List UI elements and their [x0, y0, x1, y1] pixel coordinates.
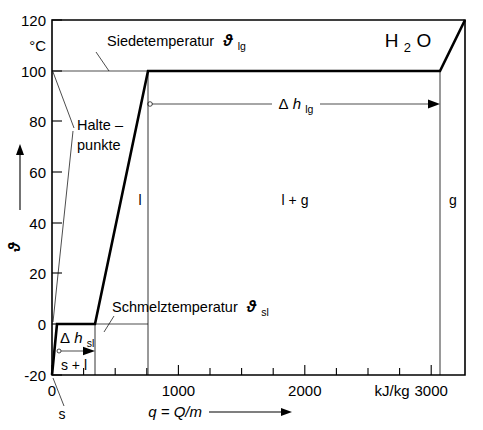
- x-tick-label-3000: 3000: [415, 382, 448, 399]
- delta-h-lg-label: Δ h lg: [279, 95, 314, 115]
- x-axis-unit-label: kJ/kg: [374, 382, 409, 399]
- boiling-temperature-annotation: Siedetemperatur ϑ lg: [96, 32, 246, 71]
- x-axis-arrow-icon: [281, 408, 292, 416]
- delta-h-lg-dimension: Δ h lg: [148, 95, 440, 115]
- substance-label: H 2 O: [385, 30, 431, 56]
- y-tick-label-120: 120: [21, 12, 46, 29]
- y-axis-title-group: ϑ: [6, 144, 24, 253]
- hold-points-leader-lower: [53, 131, 73, 322]
- hold-points-label-line2: punkte: [77, 137, 121, 153]
- y-tick-label-20: 20: [29, 265, 46, 282]
- boiling-temperature-label: Siedetemperatur ϑ lg: [107, 32, 246, 52]
- y-axis-arrow-icon: [16, 144, 24, 155]
- phase-diagram-chart: -20 0 20 40 60 80 100 120 °C ϑ 0 1000 20…: [0, 0, 483, 430]
- melting-temperature-annotation: Schmelztemperatur ϑ sl: [104, 298, 269, 332]
- melting-temperature-label: Schmelztemperatur ϑ sl: [112, 298, 269, 318]
- x-axis-title-group: q = Q/m: [148, 403, 292, 420]
- x-axis-title: q = Q/m: [148, 403, 202, 420]
- x-tick-label-1000: 1000: [162, 382, 195, 399]
- plot-frame: [52, 20, 465, 375]
- y-tick-label-minus20: -20: [24, 367, 46, 384]
- heating-curve-path: [52, 20, 465, 375]
- region-label-liquid-gas: l + g: [282, 192, 309, 208]
- hold-points-annotation: Halte – punkte: [53, 72, 124, 322]
- region-label-gas: g: [449, 192, 457, 208]
- solid-region-label: s: [59, 406, 66, 422]
- boiling-leader-line: [96, 52, 109, 71]
- region-label-liquid: l: [138, 192, 141, 208]
- y-axis-tick-labels: -20 0 20 40 60 80 100 120: [21, 12, 46, 384]
- delta-h-sl-dimension: Δ h sl: [57, 329, 95, 355]
- heating-curve: [52, 20, 465, 375]
- y-tick-label-100: 100: [21, 63, 46, 80]
- delta-h-sl-label: Δ h sl: [60, 329, 94, 349]
- region-separators: [148, 71, 440, 375]
- x-tick-label-2000: 2000: [288, 382, 321, 399]
- heating-curve-figure: -20 0 20 40 60 80 100 120 °C ϑ 0 1000 20…: [0, 0, 483, 430]
- region-label-solid-liquid: s + l: [61, 357, 87, 373]
- x-tick-label-0: 0: [48, 382, 56, 399]
- y-axis-unit-label: °C: [29, 37, 46, 54]
- x-axis-tick-labels: 0 1000 2000 3000 kJ/kg: [48, 382, 448, 399]
- hold-points-leader-upper: [53, 72, 74, 128]
- delta-h-lg-arrowhead: [428, 100, 440, 109]
- region-labels: s + l l l + g g: [61, 192, 457, 373]
- y-tick-label-40: 40: [29, 215, 46, 232]
- hold-points-label-line1: Halte –: [77, 117, 124, 133]
- y-tick-label-60: 60: [29, 164, 46, 181]
- y-tick-label-80: 80: [29, 113, 46, 130]
- delta-h-sl-start-marker: [57, 349, 61, 353]
- x-axis-ticks: [52, 365, 431, 375]
- y-axis-title: ϑ: [6, 242, 23, 253]
- y-tick-label-0: 0: [38, 316, 46, 333]
